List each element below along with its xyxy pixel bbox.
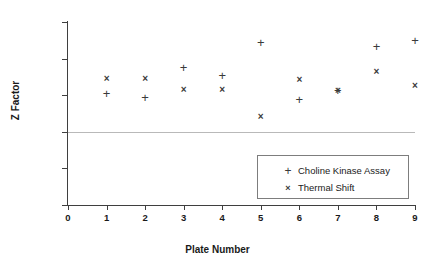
x-axis-tick-label: 7 [326, 212, 350, 223]
data-point-marker: × [331, 84, 344, 97]
x-axis-tick [415, 205, 416, 210]
x-axis-tick-label: 9 [403, 212, 427, 223]
threshold-line [68, 132, 415, 133]
legend-label-thermal-shift: Thermal Shift [294, 182, 355, 193]
x-axis-tick [184, 205, 185, 210]
x-axis-tick [222, 205, 223, 210]
legend-item-choline-kinase-assay: +Choline Kinase Assay [282, 161, 390, 177]
x-axis-title: Plate Number [0, 244, 435, 255]
data-point-marker: × [254, 110, 267, 123]
y-axis-line [67, 21, 68, 206]
y-axis-tick [62, 168, 68, 169]
data-point-marker: + [409, 34, 422, 47]
x-axis-tick-label: 8 [364, 212, 388, 223]
y-axis-tick [62, 132, 68, 133]
scatter-chart-figure: +++++++++××××××××× 00.20.40.60.81 012345… [0, 0, 435, 269]
x-axis-tick-label: 0 [56, 212, 80, 223]
y-axis-tick [62, 95, 68, 96]
x-axis-tick [376, 205, 377, 210]
data-point-marker: × [177, 83, 190, 96]
data-point-marker: + [370, 40, 383, 53]
plus-marker-icon: + [282, 164, 294, 178]
data-point-marker: + [254, 36, 267, 49]
x-axis-tick [145, 205, 146, 210]
data-point-marker: × [409, 79, 422, 92]
x-axis-line [67, 205, 416, 206]
x-axis-tick-label: 5 [249, 212, 273, 223]
data-point-marker: + [216, 69, 229, 82]
data-point-marker: × [370, 65, 383, 78]
legend-box: +Choline Kinase Assay ×Thermal Shift [257, 155, 409, 199]
x-axis-tick-label: 4 [210, 212, 234, 223]
x-axis-tick-label: 1 [95, 212, 119, 223]
x-axis-tick-label: 2 [133, 212, 157, 223]
data-point-marker: × [216, 83, 229, 96]
x-axis-tick [68, 205, 69, 210]
y-axis-title: Z Factor [10, 56, 21, 146]
y-axis-tick [62, 59, 68, 60]
legend-label-choline-kinase-assay: Choline Kinase Assay [294, 165, 390, 176]
data-point-marker: × [293, 73, 306, 86]
x-axis-tick [107, 205, 108, 210]
x-axis-tick [338, 205, 339, 210]
y-axis-tick [62, 22, 68, 23]
x-axis-tick-label: 6 [287, 212, 311, 223]
data-point-marker: × [100, 72, 113, 85]
data-point-marker: × [139, 72, 152, 85]
x-axis-tick [299, 205, 300, 210]
x-axis-tick [261, 205, 262, 210]
data-point-marker: + [177, 61, 190, 74]
data-point-marker: + [139, 91, 152, 104]
x-axis-tick-label: 3 [172, 212, 196, 223]
data-point-marker: + [100, 87, 113, 100]
cross-marker-icon: × [282, 183, 294, 193]
data-point-marker: + [293, 93, 306, 106]
legend-item-thermal-shift: ×Thermal Shift [282, 178, 355, 194]
